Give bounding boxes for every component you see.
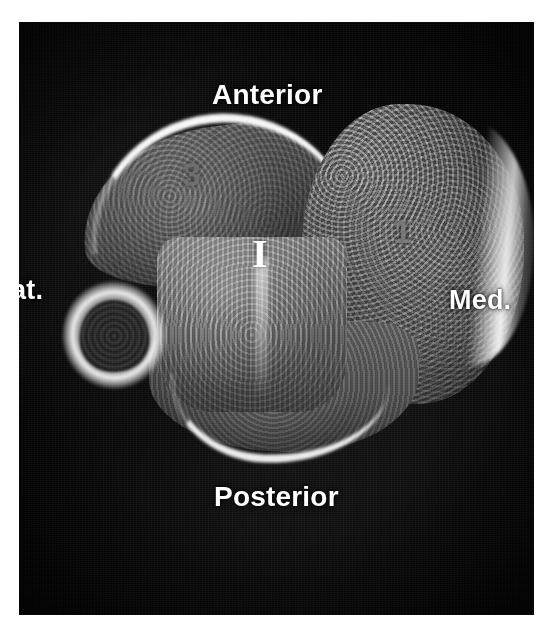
posterior-cortical-rim (168, 373, 390, 467)
scan-page: 3 1 I Anterior Posterior Med. at. (0, 0, 547, 629)
annotation-numeral-3: 3 (182, 157, 201, 191)
annotation-numeral-1: 1 (393, 214, 412, 248)
ct-scan-image: 3 1 I Anterior Posterior Med. at. (19, 22, 534, 615)
marrow-cavity (76, 296, 153, 376)
orientation-label-anterior: Anterior (212, 79, 323, 111)
orientation-label-medial: Med. (449, 285, 511, 316)
annotation-marker-i: I (252, 234, 268, 274)
orientation-label-lateral: at. (19, 275, 43, 306)
medial-cortical-rim (414, 117, 534, 367)
orientation-label-posterior: Posterior (214, 481, 339, 513)
